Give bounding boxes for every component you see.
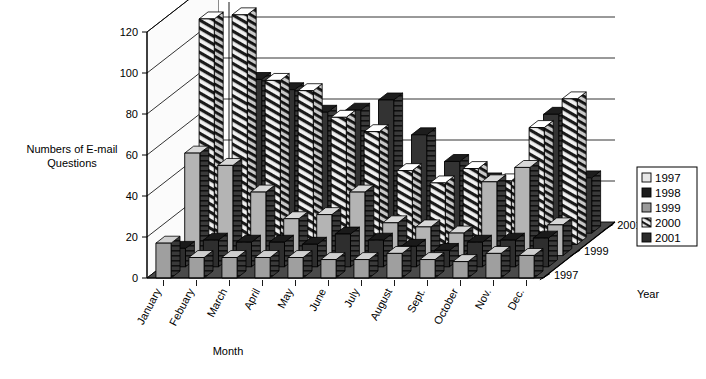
- x-tick-label-nov: Nov.: [472, 286, 493, 311]
- chart-container: 020406080100120 JanuaryFebuaryMarchApril…: [0, 0, 706, 379]
- x-tick-label-may: May: [275, 286, 296, 310]
- bar-nov-1997: [486, 246, 510, 278]
- legend-item-2000[interactable]: 2000: [642, 217, 681, 229]
- legend-swatch-2000: [642, 218, 651, 227]
- legend-label-2000: 2000: [655, 217, 681, 229]
- y-axis-ticks: 020406080100120: [120, 26, 147, 284]
- bar-may-1997: [288, 251, 312, 278]
- bar-june-1997: [321, 253, 345, 278]
- x-tick-label-july: July: [341, 286, 361, 309]
- y-tick-label-0: 0: [132, 272, 138, 284]
- bar-august-1997: [387, 246, 411, 278]
- y-tick-label-60: 60: [126, 149, 138, 161]
- x-tick-label-sept: Sept.: [405, 286, 428, 314]
- legend-item-2001[interactable]: 2001: [642, 232, 681, 244]
- bar-febuary-1997: [189, 251, 213, 278]
- bar-march-1997: [222, 251, 246, 278]
- x-tick-label-febuary: Febuary: [167, 286, 197, 328]
- y-tick-label-20: 20: [126, 231, 138, 243]
- x-axis-month-labels: JanuaryFebuaryMarchAprilMayJuneJulyAugus…: [134, 280, 526, 328]
- bar-january-1997: [156, 236, 180, 278]
- bar-july-1997: [354, 253, 378, 278]
- y-tick-label-100: 100: [120, 67, 138, 79]
- z-tick-label-1999: 1999: [584, 245, 608, 257]
- legend-item-1999[interactable]: 1999: [642, 202, 681, 214]
- x-axis-label: Month: [213, 345, 244, 357]
- x-tick-label-october: October: [431, 286, 460, 326]
- x-tick-label-march: March: [204, 286, 229, 319]
- y-tick-label-80: 80: [126, 108, 138, 120]
- legend-label-2001: 2001: [655, 232, 681, 244]
- legend-swatch-1997: [642, 173, 651, 182]
- y-axis-label-line2: Questions: [47, 157, 97, 169]
- legend: 19971998199920002001: [637, 167, 697, 246]
- y-tick-label-120: 120: [120, 26, 138, 38]
- z-tick-label-1997: 1997: [554, 269, 578, 281]
- x-tick-label-june: June: [306, 286, 328, 313]
- y-tick-label-40: 40: [126, 190, 138, 202]
- bar-sept-1997: [420, 253, 444, 278]
- x-tick-label-january: January: [134, 286, 163, 327]
- legend-swatch-1999: [642, 203, 651, 212]
- legend-label-1999: 1999: [655, 202, 681, 214]
- x-tick-label-april: April: [241, 286, 262, 311]
- z-axis-label: Year: [637, 288, 660, 300]
- bar-chart-3d: 020406080100120 JanuaryFebuaryMarchApril…: [0, 0, 706, 379]
- legend-item-1998[interactable]: 1998: [642, 187, 681, 199]
- y-axis-label-line1: Numbers of E-mail: [26, 143, 117, 155]
- bar-dec-1997: [519, 249, 543, 278]
- legend-label-1998: 1998: [655, 187, 681, 199]
- legend-swatch-2001: [642, 233, 651, 242]
- legend-label-1997: 1997: [655, 172, 681, 184]
- legend-swatch-1998: [642, 188, 651, 197]
- bar-april-1997: [255, 251, 279, 278]
- legend-item-1997[interactable]: 1997: [642, 172, 681, 184]
- x-tick-label-dec: Dec.: [505, 286, 526, 312]
- x-tick-label-august: August: [368, 286, 395, 322]
